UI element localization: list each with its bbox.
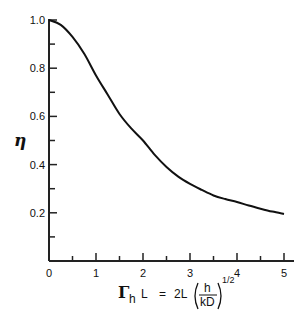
data-line <box>49 20 284 214</box>
x-tick-label: 1 <box>93 267 99 279</box>
x-tick-label: 4 <box>234 267 240 279</box>
y-tick-label: 0.2 <box>30 207 45 219</box>
y-tick-label: 0.8 <box>30 62 45 74</box>
x-label-2L: 2L <box>174 287 188 301</box>
x-tick-label: 0 <box>46 267 52 279</box>
x-label-equals: = <box>159 287 166 301</box>
x-label-denominator: kD <box>200 295 215 309</box>
x-axis-label: Γ h L = 2L h kD 1/2 <box>118 275 235 309</box>
right-paren <box>218 283 221 309</box>
ticks: 0123450.20.40.60.81.0 <box>30 14 287 279</box>
x-label-numerator: h <box>204 281 211 295</box>
x-tick-label: 5 <box>281 267 287 279</box>
x-label-L: L <box>141 287 148 301</box>
x-tick-label: 2 <box>140 267 146 279</box>
left-paren <box>195 283 198 309</box>
x-tick-label: 3 <box>187 267 193 279</box>
y-tick-label: 0.4 <box>30 159 45 171</box>
x-label-exponent: 1/2 <box>222 275 235 285</box>
y-tick-label: 0.6 <box>30 110 45 122</box>
y-tick-label: 1.0 <box>30 14 45 26</box>
chart: 0123450.20.40.60.81.0 η Γ h L = 2L h kD … <box>0 0 308 329</box>
x-label-subscript: h <box>129 292 136 306</box>
y-axis-label: η <box>14 130 26 150</box>
